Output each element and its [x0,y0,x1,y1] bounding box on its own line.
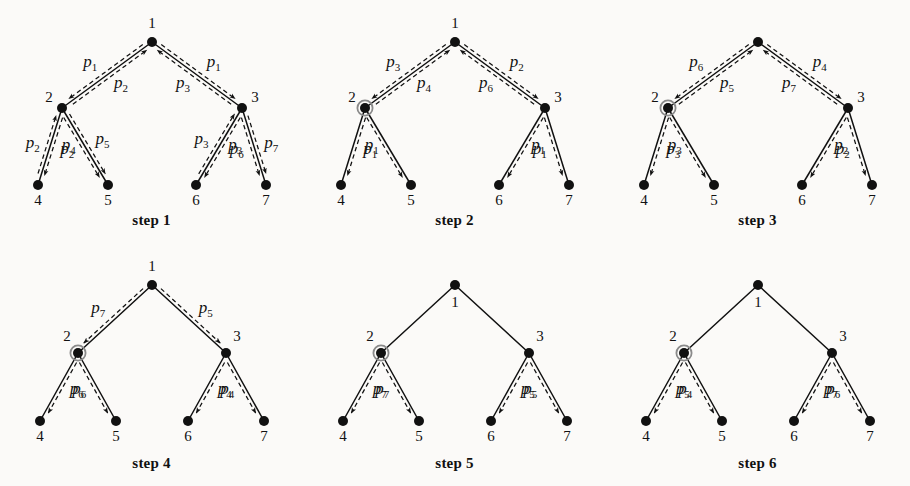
tree-node-2[interactable] [679,348,689,358]
node-label-2: 2 [651,89,659,105]
tree-node-1[interactable] [753,37,763,47]
tree-node-3[interactable] [827,348,837,358]
arrow-1-3-p3 [157,50,231,104]
tree-nodes [35,280,269,426]
tree-edge-1-2 [78,285,152,353]
tree-labels: p7p7p5p51234567 [339,294,571,444]
tree-node-7[interactable] [562,416,572,426]
node-label-7: 7 [868,192,876,208]
tree-node-7[interactable] [259,416,269,426]
tree-node-5[interactable] [709,180,719,190]
node-label-5: 5 [710,192,718,208]
tree-node-5[interactable] [103,180,113,190]
node-label-7: 7 [262,192,270,208]
tree-node-7[interactable] [261,180,271,190]
node-label-2: 2 [669,328,677,344]
message-arrows [348,45,563,178]
tree-node-7[interactable] [867,180,877,190]
panel-caption-step4: step 4 [0,455,303,472]
edge-label-3-7-p4: p4 [219,379,235,400]
tree-node-3[interactable] [237,103,247,113]
tree-node-1[interactable] [450,280,460,290]
edge-label-2-5-p1: p1 [362,139,377,160]
tree-edge-1-3 [455,285,529,353]
tree-nodes [639,37,877,190]
tree-node-1[interactable] [450,37,460,47]
tree-edge-3-7 [226,353,264,421]
tree-node-6[interactable] [797,180,807,190]
node-label-6: 6 [495,192,503,208]
tree-node-1[interactable] [753,280,763,290]
tree-edge-3-7 [242,108,266,185]
tree-node-5[interactable] [406,180,416,190]
edge-label-2-5-p5: p5 [94,129,110,150]
tree-node-7[interactable] [564,180,574,190]
node-label-2: 2 [348,89,356,105]
tree-node-3[interactable] [843,103,853,113]
panel-step2: p4p3p6p2p1p1p1p11234567step 2 [303,0,606,243]
tree-node-7[interactable] [865,416,875,426]
message-arrows [651,45,866,178]
tree-node-6[interactable] [183,416,193,426]
tree-edge-1-3 [758,42,848,108]
edge-label-3-7-p1: p1 [530,135,545,156]
tree-edge-3-7 [529,353,567,421]
node-label-3: 3 [839,328,847,344]
tree-node-4[interactable] [641,416,651,426]
arrow-1-3-p1 [161,45,235,99]
tree-labels: p5p6p7p4p3p3p2p2234567 [640,52,876,208]
tree-node-5[interactable] [414,416,424,426]
edge-label-1-3-p5: p5 [198,298,214,319]
edge-label-1-3-p7: p7 [781,73,797,94]
tree-nodes [33,37,271,190]
tree-node-6[interactable] [494,180,504,190]
tree-node-6[interactable] [486,416,496,426]
tree-node-2[interactable] [663,103,673,113]
edge-label-1-3-p1: p1 [206,52,221,73]
tree-node-6[interactable] [789,416,799,426]
tree-node-4[interactable] [338,416,348,426]
arrow-1-2-p3 [372,45,446,99]
tree-nodes [336,37,574,190]
tree-edges [38,42,266,185]
tree-node-3[interactable] [540,103,550,113]
arrow-1-2-p1 [69,45,143,99]
node-label-3: 3 [233,328,241,344]
tree-node-6[interactable] [191,180,201,190]
node-label-1: 1 [148,15,156,31]
node-label-4: 4 [339,428,347,444]
node-label-2: 2 [45,89,53,105]
tree-node-2[interactable] [360,103,370,113]
node-label-7: 7 [866,428,874,444]
tree-edge-2-4 [644,108,668,185]
tree-node-4[interactable] [33,180,43,190]
node-label-5: 5 [415,428,423,444]
tree-node-2[interactable] [57,103,67,113]
edge-label-1-2-p6: p6 [688,52,704,73]
node-label-3: 3 [554,89,562,105]
edge-label-2-5-p4: p4 [677,379,693,400]
node-label-4: 4 [34,192,42,208]
tree-node-5[interactable] [717,416,727,426]
tree-node-4[interactable] [639,180,649,190]
tree-node-3[interactable] [524,348,534,358]
tree-node-5[interactable] [111,416,121,426]
edge-label-2-5-p7: p7 [374,379,390,400]
edge-label-3-7-p7: p7 [263,133,279,154]
tree-node-3[interactable] [221,348,231,358]
edge-label-1-3-p6: p6 [478,73,494,94]
tree-node-1[interactable] [147,37,157,47]
edge-label-2-5-p2: p2 [59,139,74,160]
node-label-2: 2 [366,328,374,344]
tree-edge-1-3 [152,42,242,108]
node-label-2: 2 [63,328,71,344]
tree-node-2[interactable] [73,348,83,358]
tree-node-4[interactable] [336,180,346,190]
tree-node-4[interactable] [35,416,45,426]
node-label-7: 7 [563,428,571,444]
tree-node-1[interactable] [147,280,157,290]
tree-edge-3-7 [832,353,870,421]
tree-node-2[interactable] [376,348,386,358]
edge-label-2-5-p3: p3 [665,139,681,160]
edge-label-2-5-p6: p6 [71,379,87,400]
